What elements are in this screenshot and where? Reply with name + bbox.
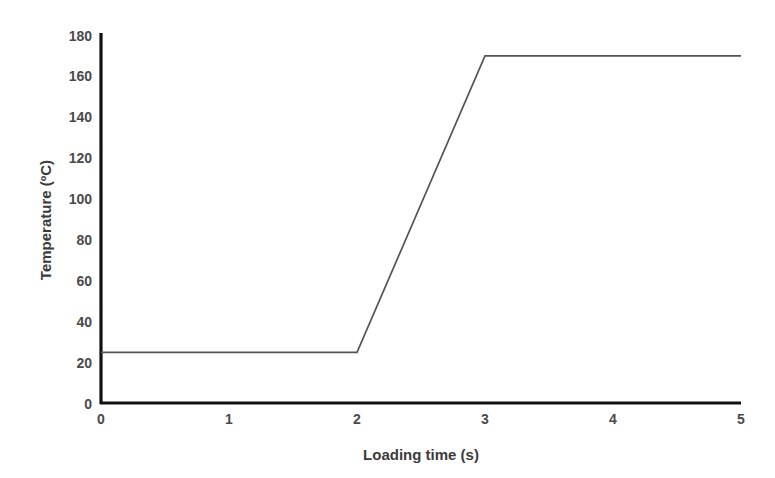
temperature-loading-time-chart: Temperature (ºC) 02040608010012014016018… [0, 0, 775, 478]
axis-lines [100, 33, 741, 404]
data-series-group [101, 56, 741, 352]
data-line-temperature-profile [101, 56, 741, 352]
plot-area [0, 0, 775, 478]
